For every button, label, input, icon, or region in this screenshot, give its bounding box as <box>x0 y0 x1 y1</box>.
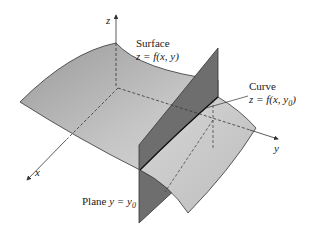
x-axis-label: x <box>35 166 40 178</box>
x-axis <box>27 140 66 180</box>
curve-equation: z = f(x, y0) <box>249 93 296 110</box>
surface-equation: z = f(x, y) <box>136 50 179 62</box>
curve-title: Curve <box>249 80 276 92</box>
y-axis <box>250 130 278 139</box>
z-axis-label: z <box>106 14 110 26</box>
diagram-canvas <box>0 0 315 240</box>
y-axis-label: y <box>274 142 279 154</box>
plane-label: Plane y = y0 <box>82 195 136 212</box>
surface-title: Surface <box>136 37 170 49</box>
